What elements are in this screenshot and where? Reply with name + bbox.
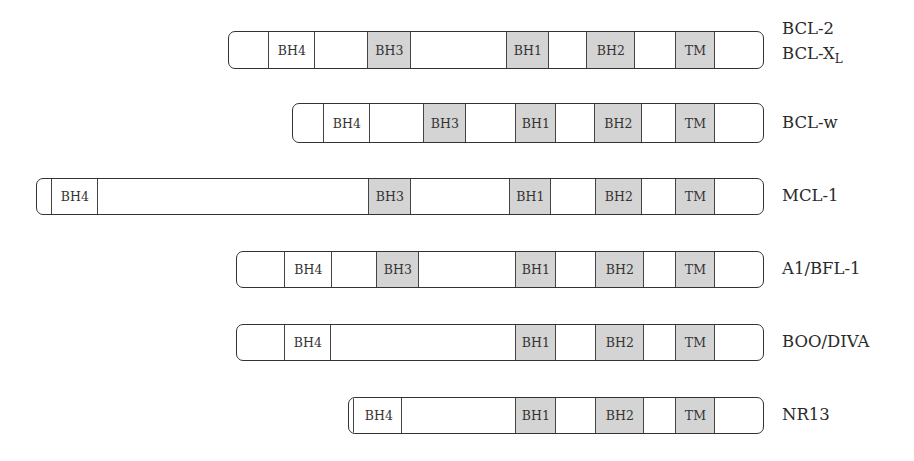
protein-bar-bclw: BH4BH3BH1BH2TM xyxy=(292,103,764,143)
domain-bh4: BH4 xyxy=(284,252,332,287)
n-terminal-segment xyxy=(353,398,357,433)
domain-tm: TM xyxy=(675,104,715,142)
domain-bh1: BH1 xyxy=(509,179,551,214)
protein-bar-mcl1: BH4BH3BH1BH2TM xyxy=(36,178,764,215)
domain-bh3: BH3 xyxy=(368,179,411,214)
domain-bh3: BH3 xyxy=(423,104,466,142)
domain-bh1: BH1 xyxy=(515,104,556,142)
protein-bar-a1: BH4BH3BH1BH2TM xyxy=(236,251,764,288)
protein-label-line: BCL-2 xyxy=(782,16,843,41)
domain-bh4: BH4 xyxy=(355,398,402,433)
domain-bh1: BH1 xyxy=(506,32,549,68)
protein-label-mcl1: MCL-1 xyxy=(782,186,839,205)
domain-tm: TM xyxy=(675,32,715,68)
domain-bh1: BH1 xyxy=(515,252,556,287)
domain-tm: TM xyxy=(675,398,715,433)
domain-bh4: BH4 xyxy=(51,179,98,214)
domain-bh2: BH2 xyxy=(595,398,644,433)
protein-bar-boo: BH4BH1BH2TM xyxy=(236,324,764,361)
domain-bh4: BH4 xyxy=(284,325,331,360)
protein-label-a1: A1/BFL-1 xyxy=(782,259,861,278)
protein-label-line: BCL-XL xyxy=(782,41,843,72)
domain-tm: TM xyxy=(675,252,715,287)
protein-label-bclw: BCL-w xyxy=(782,113,838,132)
domain-bh4: BH4 xyxy=(323,104,370,142)
domain-tm: TM xyxy=(675,179,715,214)
domain-tm: TM xyxy=(675,325,715,360)
protein-bar-bcl2: BH4BH3BH1BH2TM xyxy=(228,31,764,69)
domain-bh2: BH2 xyxy=(586,32,635,68)
protein-label-boo: BOO/DIVA xyxy=(782,332,870,351)
domain-bh3: BH3 xyxy=(376,252,419,287)
domain-bh2: BH2 xyxy=(594,104,642,142)
protein-label-bcl2: BCL-2BCL-XL xyxy=(782,16,843,72)
domain-bh2: BH2 xyxy=(595,252,644,287)
domain-bh2: BH2 xyxy=(595,325,644,360)
domain-bh4: BH4 xyxy=(268,32,315,68)
domain-bh1: BH1 xyxy=(515,398,556,433)
protein-bar-nr13: BH4BH1BH2TM xyxy=(348,397,764,434)
domain-bh3: BH3 xyxy=(367,32,411,68)
domain-bh2: BH2 xyxy=(595,179,642,214)
protein-label-nr13: NR13 xyxy=(782,405,830,424)
domain-bh1: BH1 xyxy=(515,325,556,360)
